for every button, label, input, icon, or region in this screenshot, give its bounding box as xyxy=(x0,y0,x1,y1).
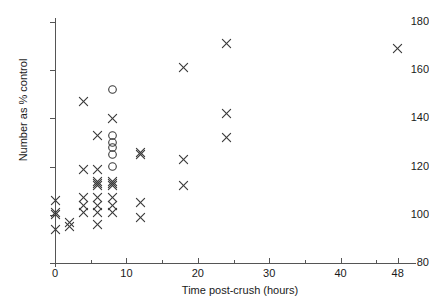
plot-area xyxy=(55,22,412,263)
scatter-plot-figure: Number as % control Time post-crush (hou… xyxy=(0,0,429,306)
data-point-cross xyxy=(78,96,89,107)
data-point-cross xyxy=(107,180,118,191)
data-point-cross xyxy=(135,149,146,160)
data-point-cross xyxy=(64,221,75,232)
data-point-cross xyxy=(178,154,189,165)
data-point-circle xyxy=(107,84,118,95)
x-axis-line xyxy=(51,263,416,264)
data-point-cross xyxy=(178,62,189,73)
data-point-cross xyxy=(392,43,403,54)
x-axis-tick-label: 40 xyxy=(321,268,361,279)
data-point-cross xyxy=(92,180,103,191)
data-point-cross xyxy=(50,209,61,220)
x-axis-tick-label: 48 xyxy=(378,268,418,279)
data-point-cross xyxy=(92,219,103,230)
x-axis-tick-label: 20 xyxy=(178,268,218,279)
data-point-cross xyxy=(135,212,146,223)
data-point-cross xyxy=(50,224,61,235)
data-point-cross xyxy=(78,164,89,175)
data-point-cross xyxy=(135,197,146,208)
data-point-cross xyxy=(107,113,118,124)
x-axis-title: Time post-crush (hours) xyxy=(110,284,370,296)
data-point-cross xyxy=(78,207,89,218)
data-point-circle xyxy=(107,149,118,160)
data-point-cross xyxy=(50,195,61,206)
x-axis-tick-label: 0 xyxy=(35,268,75,279)
data-point-cross xyxy=(221,108,232,119)
data-point-circle xyxy=(107,161,118,172)
data-point-cross xyxy=(221,38,232,49)
data-point-cross xyxy=(178,180,189,191)
data-point-cross xyxy=(92,207,103,218)
y-axis-tick xyxy=(50,263,56,264)
data-point-cross xyxy=(92,164,103,175)
data-point-cross xyxy=(221,132,232,143)
data-point-cross xyxy=(107,207,118,218)
x-axis-tick-label: 30 xyxy=(249,268,289,279)
data-point-cross xyxy=(92,130,103,141)
y-axis-title: Number as % control xyxy=(17,35,29,185)
x-axis-tick-label: 10 xyxy=(106,268,146,279)
